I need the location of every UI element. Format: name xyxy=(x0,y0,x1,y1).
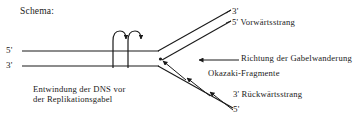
replication-fork-figure: Schema: 5' 3' Entwindung der DNS vor der… xyxy=(0,0,356,125)
label-lagging-template-five-prime: 5' xyxy=(233,104,240,114)
label-parent-bottom-three-prime: 3' xyxy=(6,60,13,70)
leading-top-label-leader xyxy=(226,10,231,13)
label-lagging-strand: 3' Rückwärtsstrang xyxy=(233,90,302,100)
label-parent-top-five-prime: 5' xyxy=(6,45,13,55)
leading-strand-template-line xyxy=(158,10,231,51)
label-leading-template-three-prime: 3' xyxy=(232,6,239,16)
figure-title: Schema: xyxy=(20,6,54,17)
unwinding-loop-left-arc xyxy=(113,31,126,68)
okazaki-arrow-2-line xyxy=(187,78,210,96)
label-leading-strand: 5' Vorwärtsstrang xyxy=(232,18,295,28)
label-unwinding-line-2: der Replikationsgabel xyxy=(33,95,125,105)
unwinding-loop-right-arc xyxy=(128,31,141,68)
label-fork-direction: Richtung der Gabelwanderung xyxy=(241,54,352,64)
label-unwinding: Entwindung der DNS vor der Replikationsg… xyxy=(33,85,125,105)
fork-junction-node xyxy=(159,57,162,60)
okazaki-arrow-3-line xyxy=(210,92,233,110)
leading-strand-new-line xyxy=(162,21,231,60)
label-okazaki-fragments: Okazaki-Fragmente xyxy=(208,69,280,79)
